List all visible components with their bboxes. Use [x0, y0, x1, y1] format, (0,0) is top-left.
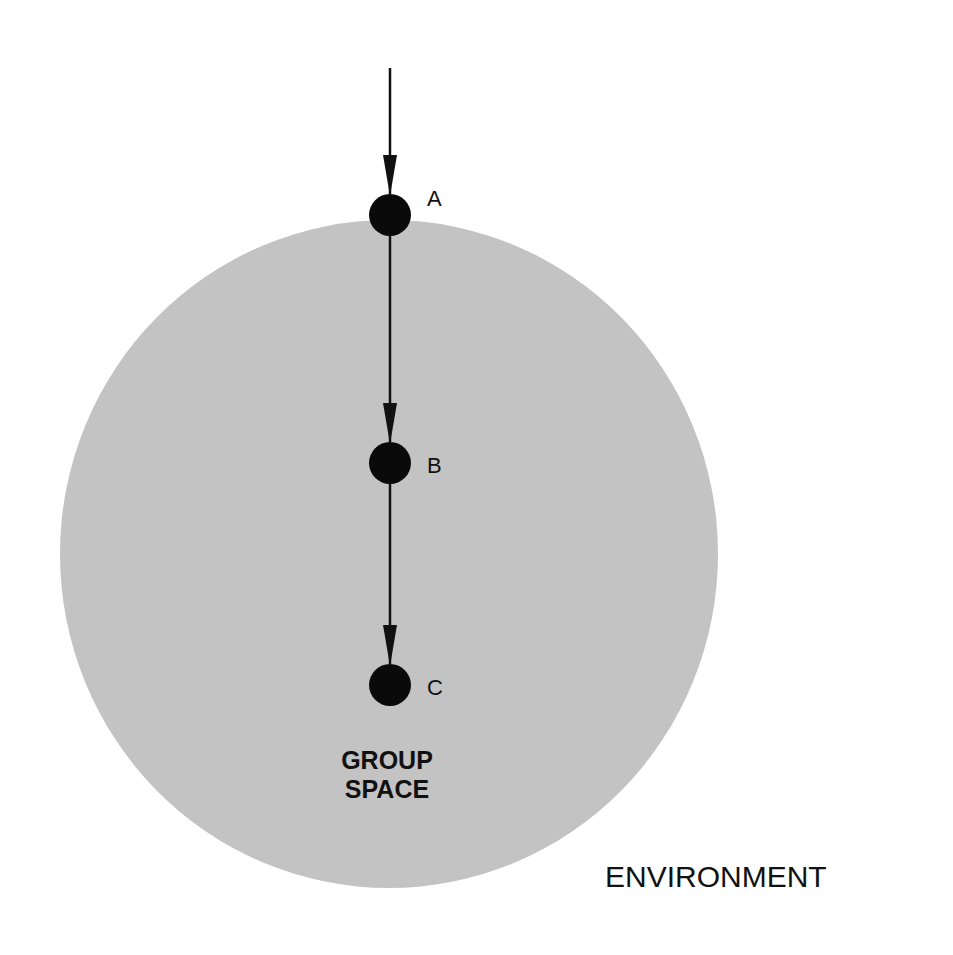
environment-label: ENVIRONMENT — [605, 860, 827, 894]
node-b-label: B — [427, 453, 442, 479]
group-space-label: GROUP SPACE — [307, 746, 467, 804]
node-c — [369, 664, 411, 706]
diagram-canvas — [0, 0, 953, 955]
node-a-label: A — [427, 186, 442, 212]
arrowhead-a-icon — [383, 155, 397, 196]
group-space-line1: GROUP — [307, 746, 467, 775]
node-a — [369, 194, 411, 236]
group-space-line2: SPACE — [307, 775, 467, 804]
node-b — [369, 442, 411, 484]
node-c-label: C — [427, 675, 443, 701]
